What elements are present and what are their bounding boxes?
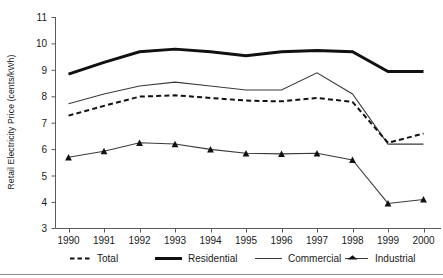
x-tick-label: 1994 <box>199 235 222 246</box>
x-tick-label: 1997 <box>306 235 329 246</box>
y-tick-label: 6 <box>41 144 47 155</box>
x-axis-ticks <box>70 229 425 233</box>
legend-label-total: Total <box>97 253 118 264</box>
y-tick-label: 7 <box>41 118 47 129</box>
legend-label-commercial: Commercial <box>288 253 341 264</box>
y-tick-label: 4 <box>41 197 47 208</box>
y-axis-title: Retail Electricity Price (cents/kWh) <box>6 55 16 190</box>
x-tick-label: 1996 <box>270 235 293 246</box>
y-tick-label: 9 <box>41 65 47 76</box>
y-axis-tick-labels: 11 10 9 8 7 6 5 4 3 <box>36 12 48 234</box>
x-tick-label: 1991 <box>93 235 116 246</box>
chart-canvas: Retail Electricity Price (cents/kWh) 11 … <box>0 0 443 278</box>
series-line-residential <box>69 49 424 74</box>
legend-item-industrial: Industrial <box>345 253 416 264</box>
series-markers-industrial <box>65 139 427 206</box>
legend-item-total: Total <box>70 253 118 264</box>
legend-label-residential: Residential <box>188 253 237 264</box>
legend-label-industrial: Industrial <box>375 253 416 264</box>
x-tick-label: 2000 <box>412 235 435 246</box>
x-tick-label: 1993 <box>164 235 187 246</box>
legend-item-residential: Residential <box>155 253 237 264</box>
x-tick-label: 1990 <box>57 235 80 246</box>
y-tick-label: 5 <box>41 171 47 182</box>
x-tick-label: 1999 <box>377 235 400 246</box>
chart-legend: Total Residential Commercial Industrial <box>70 253 416 264</box>
x-tick-label: 1992 <box>128 235 151 246</box>
y-axis-ticks <box>52 18 56 229</box>
x-axis-tick-labels: 1990199119921993199419951996199719981999… <box>57 235 435 246</box>
y-tick-label: 11 <box>37 12 48 23</box>
triangle-marker-line-swatch <box>345 255 368 259</box>
y-tick-label: 10 <box>36 38 48 49</box>
series-line-commercial <box>69 73 424 144</box>
retail-electricity-price-line-chart: Retail Electricity Price (cents/kWh) 11 … <box>0 0 443 278</box>
y-tick-label: 8 <box>41 91 47 102</box>
legend-item-commercial: Commercial <box>255 253 341 264</box>
x-tick-label: 1998 <box>341 235 364 246</box>
y-tick-label: 3 <box>41 223 47 234</box>
x-tick-label: 1995 <box>235 235 258 246</box>
